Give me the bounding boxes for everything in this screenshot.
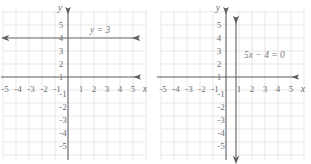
y-tick-label: 3 (217, 46, 222, 56)
y-tick-label: 5 (217, 20, 222, 30)
x-tick-label: 5 (289, 84, 294, 94)
x-tick-label: -2 (40, 84, 48, 94)
y-tick-label: -2 (59, 102, 67, 112)
grid-lines (161, 10, 304, 160)
x-tick-label: 3 (263, 84, 268, 94)
y-tick-label: -1 (59, 89, 67, 99)
x-tick-label: 2 (92, 84, 97, 94)
y-tick-label: 3 (59, 46, 64, 56)
y-tick-label: -1 (217, 89, 225, 99)
y-tick-label: 4 (59, 33, 64, 43)
x-tick-label: 4 (276, 84, 281, 94)
y-tick-label: 5 (59, 20, 64, 30)
y-tick-label: -3 (59, 115, 67, 125)
y-tick-label: 1 (59, 72, 64, 82)
x-tick-label: -5 (1, 84, 9, 94)
equation-label-left: y = 3 (89, 25, 110, 35)
y-tick-label: 1 (217, 72, 222, 82)
y-tick-label: -2 (217, 102, 225, 112)
x-tick-label: -3 (27, 84, 35, 94)
x-tick-label: -4 (14, 84, 22, 94)
graph-5x-minus-4-equals-0: y x 5x − 4 = 0 -5 -4 -3 -2 -1 1 2 3 4 5 … (156, 0, 311, 164)
y-tick-label: -5 (59, 141, 67, 151)
x-tick-label: 1 (237, 84, 242, 94)
y-axis-label: y (57, 2, 63, 13)
graph-y-equals-3: y x y = 3 -5 -4 -3 -2 -1 1 2 3 4 5 5 4 (0, 0, 155, 164)
x-tick-label: 3 (105, 84, 110, 94)
x-tick-label: -3 (185, 84, 193, 94)
x-tick-label: -5 (159, 84, 167, 94)
equation-label-right: 5x − 4 = 0 (244, 50, 285, 60)
grid-lines (3, 10, 146, 160)
y-tick-label: 2 (217, 59, 222, 69)
y-axis-label: y (215, 2, 221, 13)
figure-container: y x y = 3 -5 -4 -3 -2 -1 1 2 3 4 5 5 4 (0, 0, 311, 164)
y-tick-label: -5 (217, 141, 225, 151)
x-tick-label: 5 (131, 84, 136, 94)
y-tick-label: -3 (217, 115, 225, 125)
x-axis-label: x (300, 83, 306, 94)
x-tick-label: 2 (250, 84, 255, 94)
x-axis-label: x (142, 83, 148, 94)
x-tick-label: 4 (118, 84, 123, 94)
y-tick-label: -4 (59, 128, 67, 138)
x-tick-label: -2 (198, 84, 206, 94)
y-tick-label: -4 (217, 128, 225, 138)
x-tick-label: 1 (79, 84, 84, 94)
y-tick-label: 4 (217, 33, 222, 43)
x-tick-label: -4 (172, 84, 180, 94)
y-tick-label: 2 (59, 59, 64, 69)
